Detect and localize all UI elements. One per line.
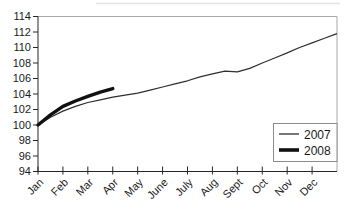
y-tick-label: 94 [19,165,31,177]
x-tick-label: June [145,176,170,201]
x-tick-label: May [122,176,146,200]
x-tick-label: Mar [73,176,95,198]
y-tick-label: 110 [13,41,31,53]
x-tick-label: Apr [100,176,121,197]
x-tick-label: Aug [198,176,220,198]
y-tick-label: 96 [19,150,31,162]
y-tick-label: 108 [13,57,31,69]
x-tick-label: Dec [297,176,320,199]
y-tick-label: 114 [13,10,31,22]
chart-canvas: 114112110108106104102100989694 JanFebMar… [0,0,352,209]
series-2007-line [38,34,337,125]
x-tick-label: Jan [24,176,45,197]
y-axis-ticks: 114112110108106104102100989694 [13,10,38,177]
y-tick-label: 112 [13,26,31,38]
y-tick-label: 104 [13,88,31,100]
x-tick-label: Feb [48,176,70,198]
x-tick-label: Oct [249,176,270,197]
legend-label-2008: 2008 [304,144,331,158]
x-tick-label: Sept [220,176,244,200]
y-tick-label: 100 [13,119,31,131]
y-tick-label: 102 [13,103,31,115]
y-tick-label: 98 [19,134,31,146]
legend: 2007 2008 [274,124,338,162]
x-tick-label: July [173,176,196,199]
y-tick-label: 106 [13,72,31,84]
x-tick-label: Nov [272,176,295,199]
index-line-chart: 114112110108106104102100989694 JanFebMar… [0,0,352,209]
legend-label-2007: 2007 [304,128,331,142]
